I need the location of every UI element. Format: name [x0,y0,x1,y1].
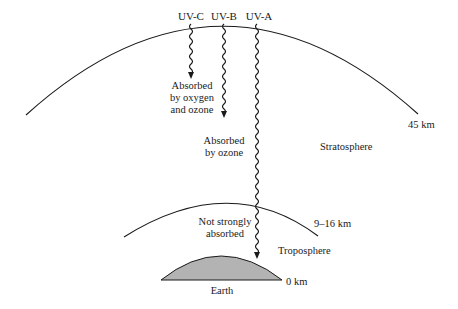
uv-a-ray [254,24,260,259]
uv-atmosphere-diagram: UV-C UV-B UV-A Absorbed by oxygen and oz… [0,0,458,309]
uv-c-absorption-line2: by oxygen [170,92,215,103]
uv-b-absorption-line2: by ozone [205,147,244,158]
uv-a-wave [256,24,259,255]
uv-c-wave [190,24,193,76]
uv-a-absorption-line1: Not strongly [199,216,253,227]
stratosphere-label: Stratosphere [320,141,373,152]
uv-c-arrowhead [188,72,194,79]
uv-b-wave [223,24,226,115]
uv-b-ray [221,24,227,118]
zero-km-label: 0 km [286,276,307,287]
earth-label: Earth [211,285,234,296]
boundary-45km-label: 45 km [408,119,435,130]
uv-c-absorption-line3: and ozone [171,104,214,115]
uv-a-arrowhead [254,252,260,259]
uv-a-label: UV-A [246,10,273,22]
uv-c-absorption-line1: Absorbed [172,80,214,91]
earth-shape [161,256,282,280]
uv-b-arrowhead [221,111,227,118]
uv-c-ray [188,24,194,79]
uv-a-absorption-line2: absorbed [206,228,245,239]
troposphere-label: Troposphere [278,245,331,256]
boundary-9-16km-label: 9–16 km [314,218,351,229]
uv-b-absorption-line1: Absorbed [204,135,246,146]
uv-c-label: UV-C [178,10,204,22]
uv-b-label: UV-B [211,10,237,22]
stratosphere-boundary-arc [26,26,418,115]
